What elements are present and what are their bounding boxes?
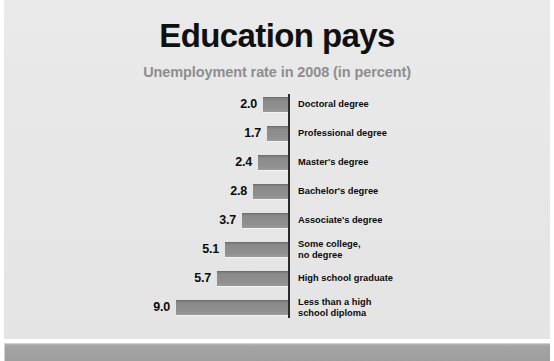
bar xyxy=(217,271,288,287)
bar xyxy=(258,155,288,171)
bar-value-label: 5.7 xyxy=(171,271,211,285)
footer-band xyxy=(4,343,550,361)
bar-value-label: 3.7 xyxy=(196,213,236,227)
page-title: Education pays xyxy=(4,17,550,55)
bar-category-label: Professional degree xyxy=(298,128,387,139)
bar-value-label: 9.0 xyxy=(130,300,170,314)
bar-row: 5.1Some college, no degree xyxy=(4,239,550,268)
bar xyxy=(225,242,288,258)
bar-value-label: 2.8 xyxy=(207,184,247,198)
bar-row: 9.0Less than a high school diploma xyxy=(4,297,550,326)
bar-category-label: Less than a high school diploma xyxy=(298,297,371,318)
bar-value-label: 2.4 xyxy=(212,155,252,169)
bar xyxy=(242,213,288,229)
bar-category-label: High school graduate xyxy=(298,273,393,284)
bar-category-label: Associate's degree xyxy=(298,215,382,226)
bar-row: 2.4Master's degree xyxy=(4,152,550,181)
bar-category-label: Doctoral degree xyxy=(298,99,369,110)
bar-row: 1.7Professional degree xyxy=(4,123,550,152)
bar xyxy=(176,300,288,316)
bar xyxy=(263,97,288,113)
bar-row: 3.7Associate's degree xyxy=(4,210,550,239)
bar xyxy=(267,126,288,142)
chart-subtitle: Unemployment rate in 2008 (in percent) xyxy=(4,63,550,81)
bar xyxy=(253,184,288,200)
bar-chart: 2.0Doctoral degree1.7Professional degree… xyxy=(4,92,550,332)
bar-value-label: 2.0 xyxy=(217,97,257,111)
slide-canvas: Education pays Unemployment rate in 2008… xyxy=(0,0,554,361)
bar-value-label: 5.1 xyxy=(179,242,219,256)
bar-row: 5.7High school graduate xyxy=(4,268,550,297)
bar-category-label: Bachelor's degree xyxy=(298,186,378,197)
bar-value-label: 1.7 xyxy=(221,126,261,140)
bar-row: 2.8Bachelor's degree xyxy=(4,181,550,210)
chart-panel: Education pays Unemployment rate in 2008… xyxy=(4,0,550,339)
bar-category-label: Master's degree xyxy=(298,157,368,168)
bar-category-label: Some college, no degree xyxy=(298,239,361,260)
bar-row: 2.0Doctoral degree xyxy=(4,94,550,123)
